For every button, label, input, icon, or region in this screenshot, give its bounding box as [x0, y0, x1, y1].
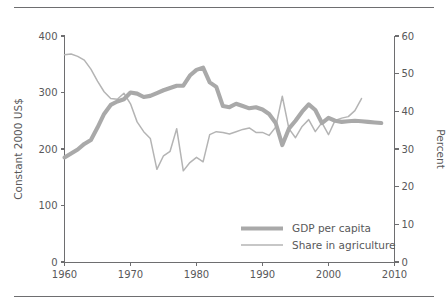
left-axis-ticks: 0100200300400 [38, 31, 64, 268]
right-tick-label: 60 [402, 31, 415, 42]
left-tick-label: 400 [38, 31, 57, 42]
right-tick-label: 30 [402, 144, 415, 155]
line-chart: 0100200300400 Constant 2000 US$ 01020304… [0, 0, 448, 308]
chart-plot-area: 0100200300400 Constant 2000 US$ 01020304… [0, 0, 448, 308]
right-tick-label: 40 [402, 106, 415, 117]
left-tick-label: 200 [38, 144, 57, 155]
right-axis-title: Percent [435, 129, 447, 169]
bottom-tick-label: 1960 [52, 269, 77, 280]
left-axis: 0100200300400 Constant 2000 US$ [12, 31, 65, 268]
bottom-tick-label: 2010 [382, 269, 407, 280]
right-axis: 0102030405060 Percent [395, 31, 448, 268]
right-tick-label: 0 [402, 257, 408, 268]
left-tick-label: 300 [38, 87, 57, 98]
left-tick-label: 0 [51, 257, 57, 268]
bottom-axis-ticks: 196019701980199020002010 [52, 262, 407, 280]
right-tick-label: 20 [402, 181, 415, 192]
bottom-tick-label: 1980 [184, 269, 209, 280]
series-line-gdp-per-capita [65, 68, 382, 158]
bottom-tick-label: 1990 [250, 269, 275, 280]
bottom-tick-label: 1970 [118, 269, 143, 280]
legend-label-share-in-agriculture: Share in agriculture [292, 239, 396, 251]
left-axis-title: Constant 2000 US$ [12, 98, 24, 200]
bottom-axis: 196019701980199020002010 [52, 262, 407, 280]
right-tick-label: 10 [402, 219, 415, 230]
right-axis-ticks: 0102030405060 [395, 31, 415, 268]
figure-container: 0100200300400 Constant 2000 US$ 01020304… [0, 0, 448, 308]
chart-legend: GDP per capita Share in agriculture [241, 222, 396, 251]
legend-label-gdp-per-capita: GDP per capita [292, 222, 371, 234]
bottom-tick-label: 2000 [316, 269, 341, 280]
right-tick-label: 50 [402, 68, 415, 79]
left-tick-label: 100 [38, 200, 57, 211]
